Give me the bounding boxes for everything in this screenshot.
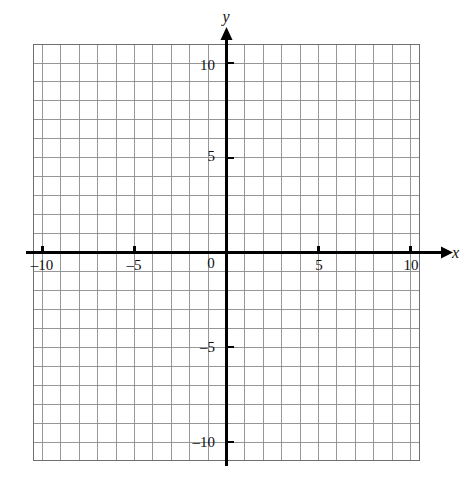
y-axis-arrowhead bbox=[221, 27, 233, 40]
y-axis-label: y bbox=[220, 8, 230, 26]
tick-label-y-neg-5: –5 bbox=[199, 339, 215, 355]
tick-label-x-neg-5: –5 bbox=[126, 257, 142, 273]
tick-label-x-neg-10: –10 bbox=[30, 257, 54, 273]
coordinate-grid-svg: 0 –10 –5 5 10 10 5 –5 –10 x y bbox=[0, 0, 471, 481]
tick-label-x-pos-5: 5 bbox=[315, 257, 323, 273]
x-axis-label: x bbox=[451, 244, 459, 261]
coordinate-plane-figure: 0 –10 –5 5 10 10 5 –5 –10 x y bbox=[0, 0, 471, 481]
tick-label-y-pos-10: 10 bbox=[200, 57, 215, 73]
tick-label-y-pos-5: 5 bbox=[208, 148, 216, 164]
tick-label-x-pos-10: 10 bbox=[404, 257, 419, 273]
tick-label-y-neg-10: –10 bbox=[192, 434, 216, 450]
tick-label-origin: 0 bbox=[207, 255, 215, 271]
